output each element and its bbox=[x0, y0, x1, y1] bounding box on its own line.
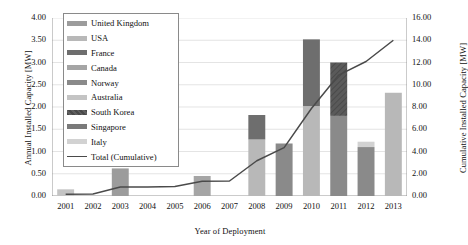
legend-item-label: Singapore bbox=[91, 122, 126, 132]
legend-item-label: Italy bbox=[91, 137, 107, 147]
bar-segment bbox=[385, 93, 402, 196]
bar-segment bbox=[303, 39, 320, 106]
chart-legend: United KingdomUSAFranceCanadaNorwayAustr… bbox=[63, 13, 179, 167]
bar-segment bbox=[276, 143, 293, 196]
bar-segment bbox=[303, 106, 320, 196]
legend-color-swatch bbox=[67, 95, 87, 100]
x-axis-tick-label: 2013 bbox=[377, 201, 409, 211]
legend-item-label: United Kingdom bbox=[91, 18, 149, 28]
legend-item-label: Total (Cumulative) bbox=[91, 152, 157, 162]
legend-color-swatch bbox=[67, 36, 87, 41]
legend-item[interactable]: Norway bbox=[67, 75, 175, 90]
bar-segment bbox=[330, 63, 347, 116]
legend-color-swatch bbox=[67, 80, 87, 85]
legend-color-swatch bbox=[67, 110, 87, 115]
legend-item-label: Norway bbox=[91, 78, 119, 88]
legend-item-label: France bbox=[91, 48, 114, 58]
legend-item[interactable]: Italy bbox=[67, 134, 175, 149]
legend-color-swatch bbox=[67, 21, 87, 26]
legend-item[interactable]: Canada bbox=[67, 60, 175, 75]
legend-line-swatch bbox=[67, 154, 87, 159]
legend-item-label: Canada bbox=[91, 63, 117, 73]
bar-segment bbox=[112, 168, 129, 196]
legend-color-swatch bbox=[67, 50, 87, 55]
legend-item-label: South Korea bbox=[91, 107, 134, 117]
legend-item[interactable]: United Kingdom bbox=[67, 16, 175, 31]
legend-item[interactable]: Singapore bbox=[67, 120, 175, 135]
bar-segment bbox=[248, 139, 265, 196]
bar-segment bbox=[194, 176, 211, 196]
legend-color-swatch bbox=[67, 124, 87, 129]
legend-item[interactable]: Total (Cumulative) bbox=[67, 149, 175, 164]
legend-color-swatch bbox=[67, 139, 87, 144]
legend-item[interactable]: France bbox=[67, 46, 175, 61]
legend-item-label: USA bbox=[91, 33, 108, 43]
bar-segment bbox=[358, 142, 375, 147]
legend-item[interactable]: USA bbox=[67, 31, 175, 46]
bar-segment bbox=[330, 116, 347, 196]
legend-item[interactable]: South Korea bbox=[67, 105, 175, 120]
bar-segment bbox=[248, 115, 265, 139]
legend-color-swatch bbox=[67, 65, 87, 70]
legend-item-label: Australia bbox=[91, 92, 123, 102]
legend-item[interactable]: Australia bbox=[67, 90, 175, 105]
bar-segment bbox=[358, 147, 375, 196]
